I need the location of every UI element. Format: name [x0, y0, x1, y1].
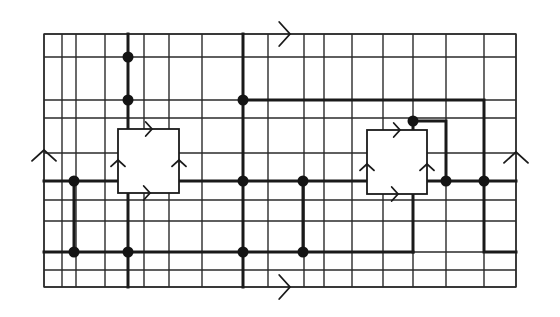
- vertex-dot: [238, 95, 249, 106]
- vertex-dot: [69, 247, 80, 258]
- vertex-dot: [298, 176, 309, 187]
- thick-paths: [44, 34, 516, 287]
- vertex-dot: [298, 247, 309, 258]
- left-plaquette: [118, 129, 179, 193]
- vertex-dot: [238, 176, 249, 187]
- vertex-dot: [123, 52, 134, 63]
- vertex-dot: [408, 116, 419, 127]
- orientation-arrows: [32, 22, 528, 299]
- vertex-dot: [238, 247, 249, 258]
- vertex-dot: [69, 176, 80, 187]
- vertex-dot: [123, 247, 134, 258]
- vertex-dot: [123, 95, 134, 106]
- vertex-dot: [479, 176, 490, 187]
- right-plaquette: [367, 130, 427, 194]
- vertex-dot: [441, 176, 452, 187]
- lattice-canvas: [0, 0, 560, 317]
- lattice-diagram: [0, 0, 560, 317]
- plaquettes: [118, 129, 427, 194]
